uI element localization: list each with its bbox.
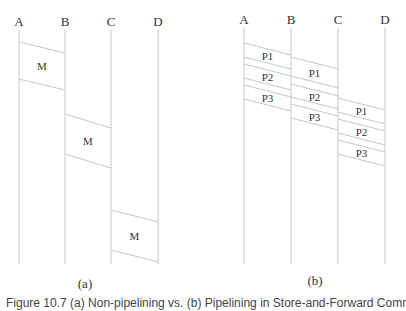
message-label: P1 — [262, 50, 274, 62]
message-label: P1 — [356, 105, 368, 117]
b-message-p1-bc: P1 — [291, 57, 338, 88]
panel-b-label: (b) — [307, 273, 322, 288]
figure-caption: Figure 10.7 (a) Non-pipelining vs. (b) P… — [6, 296, 406, 310]
message-label: M — [37, 60, 47, 72]
a-node-label-c: C — [107, 14, 116, 29]
message-label: P3 — [262, 92, 274, 104]
message-label: P2 — [262, 71, 274, 83]
message-start-edge — [65, 114, 111, 128]
a-node-label-d: D — [153, 14, 162, 29]
b-message-p3-ab: P3 — [244, 85, 291, 111]
a-message-m-cd: M — [111, 210, 158, 262]
a-message-m-ab: M — [19, 42, 65, 90]
message-label: P2 — [356, 126, 368, 138]
b-node-label-d: D — [380, 12, 389, 27]
b-node-label-c: C — [334, 12, 343, 27]
message-start-edge — [19, 42, 65, 53]
message-end-edge — [19, 79, 65, 90]
message-label: P1 — [309, 67, 321, 79]
b-message-p2-bc: P2 — [291, 84, 338, 109]
panel-a-non-pipelining: ABCDMMM — [14, 14, 162, 264]
message-start-edge — [111, 210, 158, 222]
b-message-p2-ab: P2 — [244, 64, 291, 90]
b-message-p2-cd: P2 — [338, 119, 385, 145]
panel-b-pipelining: ABCDP1P2P3P1P2P3P1P2P3 — [239, 12, 389, 264]
b-message-p3-bc: P3 — [291, 104, 338, 130]
b-message-p3-cd: P3 — [338, 140, 385, 166]
message-label: P3 — [356, 147, 368, 159]
message-end-edge — [111, 250, 158, 262]
b-message-p1-ab: P1 — [244, 43, 291, 69]
a-node-label-b: B — [61, 14, 70, 29]
b-message-p1-cd: P1 — [338, 98, 385, 124]
message-label: P3 — [309, 111, 321, 123]
message-label: M — [130, 230, 140, 242]
a-node-label-a: A — [14, 14, 24, 29]
a-message-m-bc: M — [65, 114, 111, 168]
b-node-label-b: B — [287, 12, 296, 27]
message-end-edge — [65, 154, 111, 168]
b-node-label-a: A — [239, 12, 249, 27]
message-label: P2 — [309, 91, 321, 103]
message-label: M — [83, 135, 93, 147]
panel-a-label: (a) — [78, 276, 92, 291]
